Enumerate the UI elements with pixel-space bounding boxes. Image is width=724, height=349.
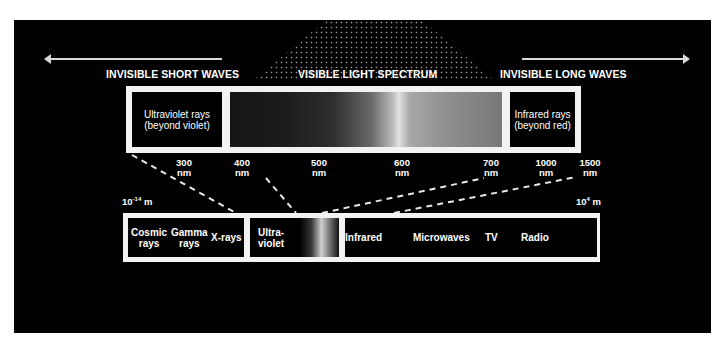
wavelength-600: 600nm xyxy=(382,158,422,178)
gamma-rays-label: Gammarays xyxy=(171,227,208,249)
scale-min-label: 10-14 m xyxy=(122,196,152,207)
wavelength-1000: 1000nm xyxy=(526,158,566,178)
ultraviolet-band-label: Ultra-violet xyxy=(258,227,284,249)
wavelength-700: 700nm xyxy=(471,158,511,178)
spectrum-diagram: INVISIBLE SHORT WAVES VISIBLE LIGHT SPEC… xyxy=(14,20,711,333)
electromagnetic-spectrum-box: Cosmicrays Gammarays X-rays Ultra-violet… xyxy=(123,213,600,262)
microwaves-label: Microwaves xyxy=(413,232,470,243)
mini-visible-gradient xyxy=(300,218,339,257)
scale-max-label: 104 m xyxy=(576,196,601,207)
wavelength-300: 300nm xyxy=(164,158,204,178)
radio-label: Radio xyxy=(521,232,549,243)
cosmic-rays-label: Cosmicrays xyxy=(131,227,167,249)
wavelength-500: 500nm xyxy=(299,158,339,178)
infrared-band-label: Infrared xyxy=(345,232,382,243)
x-rays-label: X-rays xyxy=(211,232,242,243)
wavelength-1500: 1500nm xyxy=(570,158,610,178)
tv-label: TV xyxy=(485,232,498,243)
wavelength-400: 400nm xyxy=(222,158,262,178)
long-wave-segment xyxy=(345,218,597,257)
